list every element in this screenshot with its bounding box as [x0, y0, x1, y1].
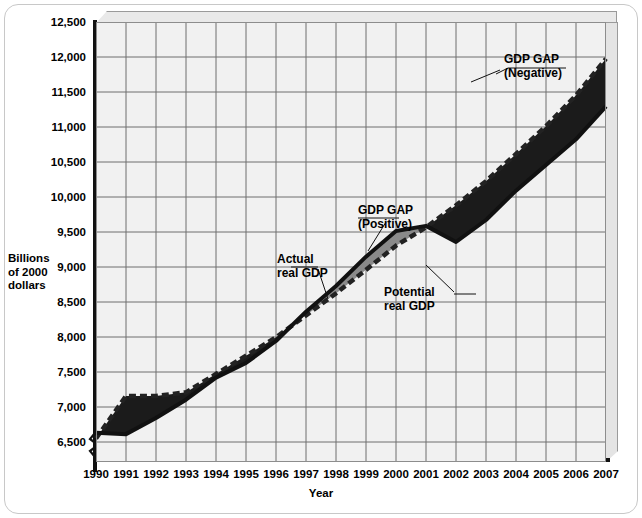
x-axis-title: Year — [0, 487, 642, 499]
annotation-gap-negative: GDP GAP (Negative) — [504, 52, 562, 80]
y-axis-title-line: Billions — [8, 252, 86, 266]
y-tick-label: 12,500 — [12, 16, 86, 28]
x-tick-label: 2007 — [584, 468, 628, 480]
y-tick-label: 9,500 — [12, 226, 86, 238]
y-axis-title-line: dollars — [8, 279, 86, 293]
plot-3d-right-bevel — [606, 22, 618, 462]
annotation-gap-positive: GDP GAP (Positive) — [358, 203, 413, 231]
chart-figure: 12,500 12,000 11,500 11,000 10,500 10,00… — [0, 0, 642, 518]
annotation-leader-lines — [96, 22, 606, 462]
y-tick-label: 7,500 — [12, 366, 86, 378]
y-tick-label: 8,000 — [12, 331, 86, 343]
plot-area — [96, 22, 606, 462]
y-axis-title-line: of 2000 — [8, 266, 86, 280]
annotation-actual-real-gdp: Actual real GDP — [277, 252, 328, 280]
y-tick-label: 8,500 — [12, 296, 86, 308]
y-tick-label: 12,000 — [12, 51, 86, 63]
y-tick-label: 7,000 — [12, 401, 86, 413]
annotation-potential-real-gdp: Potential real GDP — [384, 285, 435, 313]
y-tick-label: 6,500 — [12, 436, 86, 448]
y-axis-title: Billions of 2000 dollars — [8, 252, 86, 293]
y-tick-label: 10,500 — [12, 156, 86, 168]
y-tick-label: 10,000 — [12, 191, 86, 203]
y-tick-label: 11,000 — [12, 121, 86, 133]
y-tick-label: 11,500 — [12, 86, 86, 98]
